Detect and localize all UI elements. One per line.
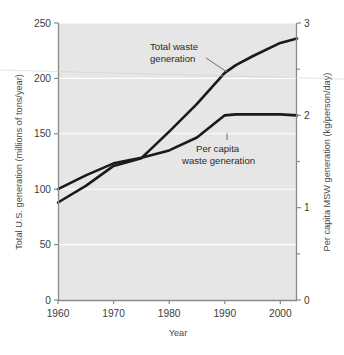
y2-tick-label-0: 0	[304, 295, 310, 306]
x-tick-label-1990: 1990	[213, 308, 236, 319]
total-waste-annotation: Total waste generation	[150, 41, 198, 64]
y-tick-label-100: 100	[34, 184, 51, 195]
y-tick-label-50: 50	[40, 239, 52, 250]
x-tick-label-1960: 1960	[47, 308, 70, 319]
per-capita-annotation-line1: Per capita	[196, 143, 240, 154]
y-tick-label-0: 0	[45, 295, 51, 306]
right-axis-title: Per capita MSW generation (kg/person/day…	[322, 73, 332, 252]
plot-area-background	[58, 23, 297, 300]
left-axis-title: Total U.S. generation (millions of tons/…	[14, 74, 24, 250]
y-tick-label-200: 200	[34, 73, 51, 84]
y-tick-label-250: 250	[34, 18, 51, 29]
total-waste-annotation-line1: Total waste	[150, 41, 198, 52]
x-axis-title: Year	[169, 328, 188, 338]
y-tick-label-150: 150	[34, 128, 51, 139]
y2-tick-label-1: 1	[304, 202, 310, 213]
waste-generation-line-chart: 050100150200250012319601970198019902000 …	[0, 0, 344, 355]
total-waste-annotation-line2: generation	[150, 53, 195, 64]
per-capita-annotation-line2: waste generation	[181, 155, 255, 166]
x-tick-label-2000: 2000	[269, 308, 292, 319]
y2-tick-label-2: 2	[304, 110, 310, 121]
y2-tick-label-3: 3	[304, 18, 310, 29]
chart-figure: 050100150200250012319601970198019902000 …	[0, 0, 344, 355]
x-tick-label-1970: 1970	[102, 308, 125, 319]
x-tick-label-1980: 1980	[158, 308, 181, 319]
